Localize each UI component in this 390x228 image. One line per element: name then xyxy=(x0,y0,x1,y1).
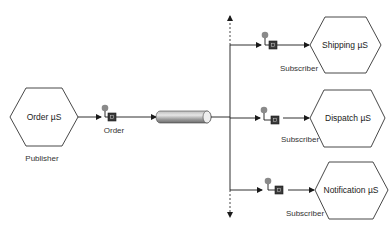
shipping-role-label: Subscriber xyxy=(280,64,318,73)
order-port-label: Order xyxy=(104,126,124,135)
dispatch-role-label: Subscriber xyxy=(281,135,319,144)
notification-role-label: Subscriber xyxy=(286,209,324,218)
shipping-service-label: Shipping µS xyxy=(322,40,368,50)
shipping-port-icon xyxy=(262,32,277,49)
order-service-label: Order µS xyxy=(27,112,62,122)
notification-service-label: Notification µS xyxy=(324,185,379,195)
dispatch-port-icon xyxy=(261,107,279,124)
notification-port-icon xyxy=(265,178,283,194)
message-channel-cylinder-icon xyxy=(156,111,211,123)
pubsub-diagram: Order µS Publisher Order Shipping µS Sub… xyxy=(0,0,390,228)
dispatch-service-label: Dispatch µS xyxy=(325,113,371,123)
order-port-icon xyxy=(102,105,116,121)
publisher-role-label: Publisher xyxy=(25,154,58,163)
